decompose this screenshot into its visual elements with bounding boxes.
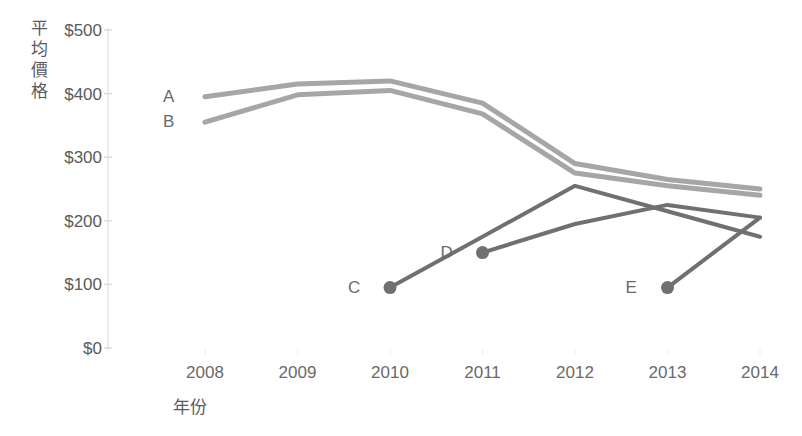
series-marker-E bbox=[661, 281, 674, 294]
series-label-B: B bbox=[163, 113, 174, 130]
series-marker-C bbox=[384, 281, 397, 294]
plot-area bbox=[0, 0, 802, 436]
series-marker-D bbox=[476, 246, 489, 259]
series-line-E bbox=[668, 218, 761, 288]
series-label-A: A bbox=[163, 88, 174, 105]
series-label-D: D bbox=[441, 244, 453, 261]
series-line-C bbox=[390, 186, 760, 288]
series-label-C: C bbox=[348, 279, 360, 296]
series-label-E: E bbox=[626, 279, 637, 296]
chart-container: 平均價格 $0$100$200$300$400$500 200820092010… bbox=[0, 0, 802, 436]
